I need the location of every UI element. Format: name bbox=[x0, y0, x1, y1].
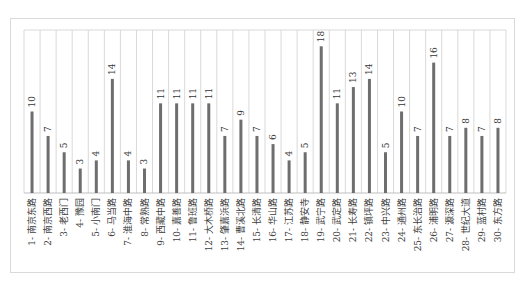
category-label: 4- 豫园 bbox=[74, 198, 85, 228]
bar bbox=[143, 169, 146, 193]
bar bbox=[159, 103, 162, 193]
category-label: 22- 镇坪路 bbox=[363, 198, 374, 242]
data-label: 4 bbox=[284, 150, 294, 156]
bar bbox=[239, 120, 242, 193]
category-label: 11- 鲁班路 bbox=[187, 198, 198, 242]
bar bbox=[31, 112, 34, 194]
category-label: 30- 东方路 bbox=[492, 198, 503, 242]
bar bbox=[384, 152, 387, 193]
bar bbox=[304, 152, 307, 193]
data-label: 11 bbox=[188, 88, 198, 99]
data-label: 10 bbox=[397, 96, 407, 108]
data-label: 5 bbox=[381, 142, 391, 148]
data-label: 7 bbox=[252, 126, 262, 132]
bar bbox=[47, 136, 50, 193]
category-label: 20- 武定路 bbox=[331, 198, 342, 242]
data-label: 11 bbox=[332, 88, 342, 99]
data-label: 7 bbox=[43, 126, 53, 132]
data-label: 8 bbox=[461, 118, 471, 124]
category-label: 9- 西藏中路 bbox=[155, 198, 166, 246]
data-label: 4 bbox=[91, 150, 101, 156]
category-label: 12- 大木桥路 bbox=[203, 198, 214, 251]
data-label: 9 bbox=[236, 110, 246, 116]
category-label: 6- 马当路 bbox=[106, 198, 117, 237]
data-label: 11 bbox=[156, 88, 166, 99]
category-labels: 1- 南京东路2- 南京西路3- 老西门4- 豫园5- 小南门6- 马当路7- … bbox=[26, 198, 503, 251]
data-label: 8 bbox=[493, 118, 503, 124]
bar bbox=[352, 87, 355, 193]
category-label: 2- 南京西路 bbox=[42, 198, 53, 246]
category-label: 7- 淮海中路 bbox=[122, 198, 133, 246]
data-label: 16 bbox=[429, 47, 439, 59]
category-label: 26- 浦明路 bbox=[428, 198, 439, 242]
category-label: 3- 老西门 bbox=[58, 198, 69, 237]
bar bbox=[480, 136, 483, 193]
bar bbox=[288, 160, 291, 193]
bar bbox=[255, 136, 258, 193]
data-label: 14 bbox=[107, 63, 117, 75]
data-label: 3 bbox=[75, 159, 85, 165]
category-label: 15- 长清路 bbox=[251, 198, 262, 242]
bar bbox=[95, 160, 98, 193]
category-label: 29- 蓝村路 bbox=[476, 198, 487, 242]
data-label: 14 bbox=[364, 63, 374, 75]
bar bbox=[127, 160, 130, 193]
bar bbox=[207, 103, 210, 193]
data-label: 7 bbox=[445, 126, 455, 132]
bar bbox=[496, 128, 499, 193]
bar bbox=[175, 103, 178, 193]
category-label: 14- 曹溪北路 bbox=[235, 198, 246, 251]
data-label: 6 bbox=[268, 134, 278, 140]
bar bbox=[416, 136, 419, 193]
data-label: 7 bbox=[477, 126, 487, 132]
bar bbox=[111, 79, 114, 193]
bar bbox=[320, 46, 323, 193]
data-label: 4 bbox=[123, 150, 133, 156]
bar bbox=[79, 169, 82, 193]
data-label: 11 bbox=[172, 88, 182, 99]
bar bbox=[272, 144, 275, 193]
bar bbox=[368, 79, 371, 193]
bar-chart: 1075341443111111117976451811131451071678… bbox=[0, 0, 522, 288]
category-label: 1- 南京东路 bbox=[26, 198, 37, 246]
bar bbox=[191, 103, 194, 193]
category-label: 23- 中兴路 bbox=[380, 198, 391, 242]
category-label: 5- 小南门 bbox=[90, 198, 101, 237]
data-label: 10 bbox=[27, 96, 37, 108]
category-label: 17- 江苏路 bbox=[283, 198, 294, 242]
data-label: 13 bbox=[348, 71, 358, 83]
category-label: 19- 武宁路 bbox=[315, 198, 326, 242]
category-label: 8- 常熟路 bbox=[139, 198, 150, 237]
bar bbox=[63, 152, 66, 193]
category-label: 28- 世纪大道 bbox=[460, 198, 471, 251]
category-label: 13- 肇嘉浜路 bbox=[219, 198, 230, 251]
data-label: 5 bbox=[59, 142, 69, 148]
bar bbox=[400, 112, 403, 194]
data-label: 7 bbox=[220, 126, 230, 132]
bar bbox=[464, 128, 467, 193]
data-label: 5 bbox=[300, 142, 310, 148]
bar bbox=[448, 136, 451, 193]
category-label: 10- 嘉善路 bbox=[171, 198, 182, 242]
category-label: 25- 东长治路 bbox=[412, 198, 423, 251]
category-label: 24- 通州路 bbox=[396, 198, 407, 242]
bar bbox=[432, 63, 435, 193]
category-label: 18- 静安寺 bbox=[299, 198, 310, 242]
category-label: 16- 华山路 bbox=[267, 198, 278, 242]
category-label: 21- 长寿路 bbox=[347, 198, 358, 242]
data-label: 18 bbox=[316, 31, 326, 43]
data-label: 3 bbox=[140, 159, 150, 165]
category-label: 27- 源深路 bbox=[444, 198, 455, 242]
bar bbox=[223, 136, 226, 193]
bar bbox=[336, 103, 339, 193]
data-label: 11 bbox=[204, 88, 214, 99]
data-label: 7 bbox=[413, 126, 423, 132]
